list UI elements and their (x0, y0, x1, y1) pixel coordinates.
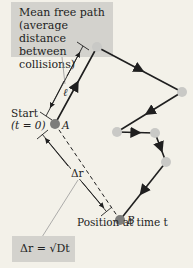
point-a-marker (50, 119, 60, 129)
delta-r-label: Δr (71, 167, 84, 179)
displacement-dashed (55, 124, 120, 220)
formula-callout: Δr = √Dt (12, 236, 75, 262)
start-label: Start (11, 107, 38, 119)
collision-nodes (92, 42, 187, 167)
formula-text: Δr = √Dt (20, 242, 70, 255)
point-a-label: A (62, 119, 70, 131)
start-time-label: (t = 0) (11, 119, 46, 131)
ell-dimension (40, 42, 89, 120)
ell-label: ℓ (63, 86, 67, 98)
formula-leader (42, 180, 78, 237)
end-position-label: Position at time t (77, 216, 168, 228)
